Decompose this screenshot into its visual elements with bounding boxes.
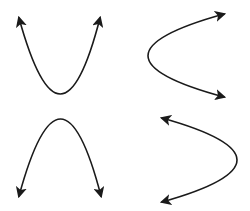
parabola-opens-up-curve	[19, 18, 100, 94]
parabola-diagram	[0, 0, 250, 211]
parabola-opens-left-curve	[162, 118, 237, 202]
parabola-opens-right	[148, 14, 224, 97]
parabola-opens-down-curve	[19, 119, 101, 196]
parabola-opens-left	[162, 118, 237, 202]
parabola-opens-down	[19, 119, 101, 196]
parabola-opens-right-curve	[148, 14, 224, 97]
parabola-opens-up	[19, 18, 100, 94]
